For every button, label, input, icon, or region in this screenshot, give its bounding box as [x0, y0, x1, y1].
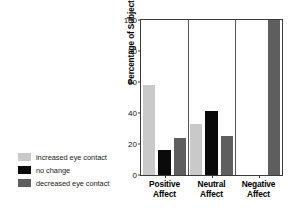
y-axis-tick-mark	[138, 175, 141, 176]
bar	[190, 124, 202, 175]
bar	[158, 150, 170, 175]
bar	[205, 111, 217, 175]
legend-swatch-decreased-eye-contact	[18, 179, 31, 187]
x-axis-label-line: Affect	[188, 189, 235, 199]
bar-chart: Percentage of Subjects 020406080100Posit…	[104, 12, 290, 208]
x-axis-label: NegativeAffect	[235, 179, 282, 199]
legend-label-no-change: no change	[36, 166, 70, 175]
x-axis-tick-mark	[165, 175, 166, 178]
bar-group	[237, 20, 281, 175]
x-axis-label-line: Neutral	[188, 179, 235, 189]
y-axis-tick-mark	[138, 144, 141, 145]
plot-inner: 020406080100PositiveAffectNeutralAffectN…	[141, 20, 282, 175]
x-axis-label: NeutralAffect	[188, 179, 235, 199]
x-axis-label-line: Negative	[235, 179, 282, 189]
y-axis-tick-mark	[138, 20, 141, 21]
legend-swatch-increased-eye-contact	[18, 153, 31, 161]
bar-group	[143, 20, 187, 175]
bar	[143, 85, 155, 175]
x-axis-tick-mark	[259, 175, 260, 178]
legend-label-decreased-eye-contact: decreased eye contact	[36, 179, 109, 188]
x-axis-tick-mark	[212, 175, 213, 178]
y-axis-tick-mark	[138, 51, 141, 52]
bar	[268, 20, 280, 175]
bar	[174, 138, 186, 175]
bar	[221, 136, 233, 175]
plot-area: 020406080100PositiveAffectNeutralAffectN…	[140, 19, 283, 176]
legend-swatch-no-change	[18, 166, 31, 174]
y-axis-tick-mark	[138, 82, 141, 83]
x-axis-label-line: Positive	[141, 179, 188, 189]
bar-group	[190, 20, 234, 175]
legend-label-increased-eye-contact: increased eye contact	[36, 153, 107, 162]
x-axis-label-line: Affect	[141, 189, 188, 199]
x-axis-label: PositiveAffect	[141, 179, 188, 199]
x-axis-label-line: Affect	[235, 189, 282, 199]
y-axis-tick-mark	[138, 113, 141, 114]
